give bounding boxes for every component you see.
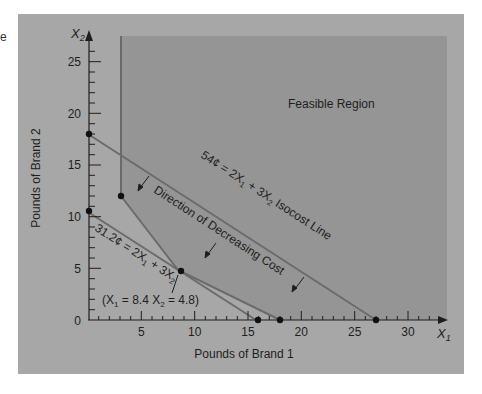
y-tick-label: 10 xyxy=(68,210,82,224)
x-tick-label: 25 xyxy=(348,325,362,339)
x-tick-label: 20 xyxy=(295,325,309,339)
y-tick-label: 20 xyxy=(68,107,82,121)
chart-figure: e xyxy=(0,0,482,394)
y-tick-label: 25 xyxy=(68,55,82,69)
y-tick-label: 0 xyxy=(74,314,81,328)
cropped-text-fragment: e xyxy=(0,30,7,44)
point-16-0 xyxy=(255,317,261,323)
y-tick-label: 5 xyxy=(74,262,81,276)
x-tick-label: 30 xyxy=(401,325,415,339)
point-0-10-4 xyxy=(86,208,92,214)
x-tick-label: 5 xyxy=(138,325,145,339)
point-18-0 xyxy=(277,317,283,323)
point-optimal xyxy=(178,268,184,274)
x-axis-title: Pounds of Brand 1 xyxy=(194,347,294,361)
y-axis-title: Pounds of Brand 2 xyxy=(29,128,43,228)
chart-svg: 5 10 15 20 25 30 0 5 10 15 20 25 X2 X1 P… xyxy=(0,0,482,394)
y-tick-label: 15 xyxy=(68,158,82,172)
x-tick-label: 10 xyxy=(188,325,202,339)
feasible-region-label: Feasible Region xyxy=(288,97,375,111)
point-3-12 xyxy=(118,193,124,199)
point-0-18 xyxy=(86,131,92,137)
x-tick-label: 15 xyxy=(241,325,255,339)
point-27-0 xyxy=(373,317,379,323)
